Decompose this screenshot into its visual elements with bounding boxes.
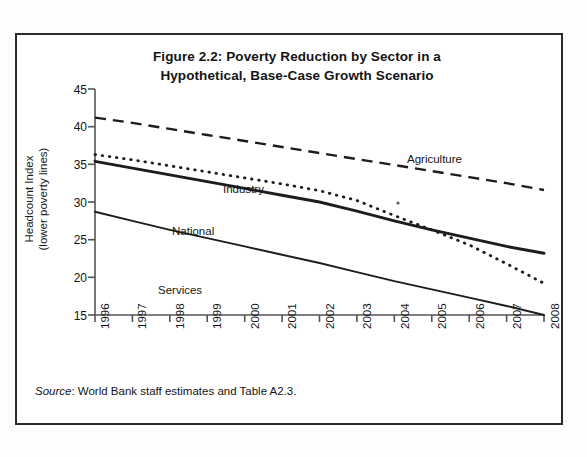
x-tick-label: 2001	[286, 303, 298, 329]
chart-plot-svg	[17, 35, 565, 427]
y-axis-title-line-2: (lower poverty lines)	[36, 104, 50, 294]
x-tick-label: 2006	[474, 303, 486, 329]
x-tick-label: 1997	[136, 303, 148, 329]
plot-area: Headcount Index (lower poverty lines) 45…	[17, 35, 565, 427]
x-tick-label: 2007	[511, 303, 523, 329]
y-tick-label: 20	[61, 271, 87, 285]
y-tick-label: 45	[61, 83, 87, 97]
series-label-national: National	[172, 225, 214, 237]
y-axis-title-line-1: Headcount Index	[22, 104, 36, 294]
source-label: Source	[35, 385, 71, 397]
y-axis-ticks	[88, 89, 95, 315]
figure-frame: Figure 2.2: Poverty Reduction by Sector …	[15, 33, 563, 425]
scan-speck	[396, 201, 399, 204]
x-tick-label: 1999	[211, 303, 223, 329]
series-line-services	[95, 212, 544, 315]
x-tick-label: 2002	[324, 303, 336, 329]
x-tick-label: 2004	[399, 303, 411, 329]
y-tick-label: 25	[61, 233, 87, 247]
x-tick-label: 1996	[99, 303, 111, 329]
series-line-national	[95, 161, 544, 253]
y-tick-label: 15	[61, 309, 87, 323]
series-label-agriculture: Agriculture	[407, 153, 462, 165]
series-line-agriculture	[95, 118, 544, 190]
source-text: : World Bank staff estimates and Table A…	[71, 385, 296, 397]
x-tick-label: 2005	[436, 303, 448, 329]
scanned-page: Figure 2.2: Poverty Reduction by Sector …	[0, 0, 587, 457]
x-tick-label: 1998	[174, 303, 186, 329]
series-label-services: Services	[158, 284, 202, 296]
y-tick-label: 30	[61, 196, 87, 210]
y-tick-label: 35	[61, 158, 87, 172]
y-tick-label: 40	[61, 120, 87, 134]
source-note: Source: World Bank staff estimates and T…	[35, 385, 296, 397]
series-label-industry: Industry	[223, 183, 264, 195]
x-tick-label: 2003	[361, 303, 373, 329]
x-tick-label: 2008	[549, 303, 561, 329]
x-tick-label: 2000	[249, 303, 261, 329]
y-axis-title: Headcount Index (lower poverty lines)	[22, 104, 50, 294]
